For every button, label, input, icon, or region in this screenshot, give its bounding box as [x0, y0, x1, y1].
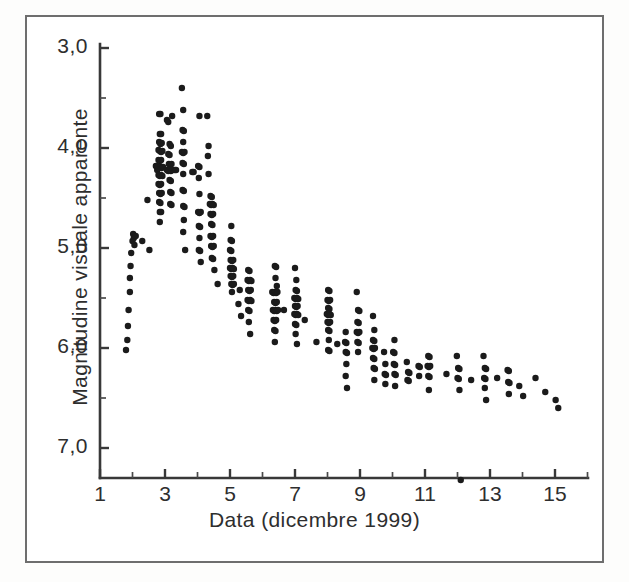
data-point — [456, 366, 462, 372]
data-point — [406, 370, 412, 376]
data-point — [159, 190, 165, 196]
data-point — [371, 377, 377, 383]
data-point — [247, 331, 253, 337]
data-point — [210, 233, 216, 239]
data-point — [168, 190, 174, 196]
data-point — [274, 289, 280, 295]
data-point — [127, 263, 133, 269]
data-point — [180, 171, 186, 177]
data-point — [404, 359, 410, 365]
data-point — [427, 363, 433, 369]
data-point — [158, 157, 164, 163]
data-point — [326, 328, 332, 334]
data-point — [228, 223, 234, 229]
data-point — [214, 281, 220, 287]
data-point — [555, 405, 561, 411]
x-tick-label: 13 — [470, 482, 510, 506]
data-point — [520, 393, 526, 399]
data-point — [456, 376, 462, 382]
data-point — [274, 283, 280, 289]
data-point — [355, 349, 361, 355]
data-point — [327, 297, 333, 303]
data-point — [144, 197, 150, 203]
data-point — [483, 397, 489, 403]
data-point — [506, 380, 512, 386]
data-point — [173, 167, 179, 173]
data-point — [295, 296, 301, 302]
data-point — [196, 113, 202, 119]
data-point — [343, 373, 349, 379]
data-point — [370, 313, 376, 319]
data-point — [273, 317, 279, 323]
data-points — [123, 85, 562, 483]
data-point — [198, 209, 204, 215]
data-point — [180, 229, 186, 235]
data-point — [295, 312, 301, 318]
data-point — [127, 289, 133, 295]
data-point — [482, 376, 488, 382]
x-tick-label: 7 — [275, 482, 315, 506]
data-point — [205, 143, 211, 149]
data-point — [391, 350, 397, 356]
data-point — [209, 222, 215, 228]
data-point — [180, 107, 186, 113]
data-point — [125, 307, 131, 313]
data-point — [205, 153, 211, 159]
data-point — [327, 319, 333, 325]
data-point — [158, 131, 164, 137]
data-point — [381, 349, 387, 355]
y-axis-title: Magnitudine visuale apparente — [68, 57, 92, 457]
data-point — [354, 289, 360, 295]
data-point — [248, 287, 254, 293]
data-point — [506, 368, 512, 374]
data-point — [139, 238, 145, 244]
data-point — [343, 329, 349, 335]
y-tick-label: 3,0 — [44, 34, 88, 58]
data-point — [210, 211, 216, 217]
data-point — [356, 308, 362, 314]
data-point — [209, 194, 215, 200]
data-point — [231, 266, 237, 272]
data-point — [313, 339, 319, 345]
data-point — [293, 277, 299, 283]
data-point — [237, 287, 243, 293]
data-point — [426, 374, 432, 380]
data-point — [168, 178, 174, 184]
data-point — [272, 275, 278, 281]
data-point — [248, 298, 254, 304]
x-tick-label: 11 — [405, 482, 445, 506]
data-point — [356, 329, 362, 335]
data-point — [302, 317, 308, 323]
data-point — [426, 387, 432, 393]
data-point — [482, 385, 488, 391]
data-point — [182, 247, 188, 253]
figure-container: 3,04,05,06,07,0 13579111315 Data (dicemb… — [0, 0, 629, 582]
data-point — [204, 113, 210, 119]
data-point — [181, 188, 187, 194]
data-point — [168, 161, 174, 167]
data-point — [246, 319, 252, 325]
data-point — [281, 307, 287, 313]
tick-marks — [100, 48, 588, 478]
data-point — [393, 372, 399, 378]
data-point — [294, 303, 300, 309]
data-point — [274, 299, 280, 305]
data-point — [275, 307, 281, 313]
data-point — [190, 169, 196, 175]
data-point — [392, 383, 398, 389]
data-point — [506, 391, 512, 397]
data-point — [157, 200, 163, 206]
x-tick-label: 1 — [80, 482, 120, 506]
axes — [100, 44, 588, 478]
data-point — [542, 389, 548, 395]
data-point — [181, 128, 187, 134]
data-point — [159, 173, 165, 179]
data-point — [294, 341, 300, 347]
data-point — [417, 364, 423, 370]
data-point — [391, 337, 397, 343]
data-point — [292, 265, 298, 271]
data-point — [552, 397, 558, 403]
data-point — [371, 338, 377, 344]
data-point — [246, 308, 252, 314]
data-point — [246, 268, 252, 274]
